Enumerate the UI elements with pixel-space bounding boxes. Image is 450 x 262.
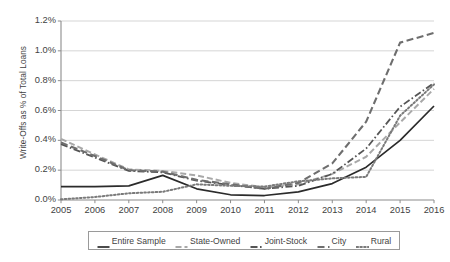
legend-item-label: Joint-Stock: [265, 236, 308, 246]
series-line-state-owned: [61, 89, 434, 187]
legend-item-label: Rural: [371, 236, 392, 246]
series-line-entire-sample: [61, 106, 434, 196]
legend-item-label: City: [332, 236, 347, 246]
chart-plot-area: [0, 0, 450, 262]
chart-figure: Write-Offs as % of Total Loans 0.0%0.2%0…: [0, 0, 450, 262]
legend-item-city[interactable]: City: [317, 236, 347, 246]
legend-swatch-icon: [97, 237, 110, 245]
legend-swatch-icon: [317, 237, 330, 245]
legend-item-entire-sample[interactable]: Entire Sample: [97, 236, 166, 246]
series-line-rural: [61, 84, 434, 199]
legend-item-label: Entire Sample: [112, 236, 166, 246]
legend-swatch-icon: [175, 237, 188, 245]
legend-item-label: State-Owned: [190, 236, 240, 246]
legend-item-state-owned[interactable]: State-Owned: [175, 236, 240, 246]
legend-swatch-icon: [250, 237, 263, 245]
legend-item-rural[interactable]: Rural: [356, 236, 392, 246]
legend-item-joint-stock[interactable]: Joint-Stock: [250, 236, 308, 246]
series-line-joint-stock: [61, 83, 434, 189]
chart-legend: Entire SampleState-OwnedJoint-StockCityR…: [88, 231, 400, 250]
legend-swatch-icon: [356, 237, 369, 245]
